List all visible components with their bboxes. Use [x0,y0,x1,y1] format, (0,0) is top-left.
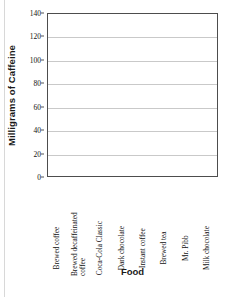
y-tick-mark [41,106,44,107]
x-tick-label-line: Milk chocolate [202,226,211,270]
y-tick-label: 120 [30,32,41,41]
y-tick-mark [41,13,44,14]
x-tick-label-line: Brewed coffee [53,227,62,270]
y-axis-title: Milligrams of Caffeine [6,45,17,146]
y-tick-mark [41,153,44,154]
gridline [48,131,217,132]
y-tick-label: 60 [34,102,42,111]
y-tick-label: 40 [34,126,42,135]
y-axis-tick-labels: 020406080100120140 [20,13,44,177]
x-axis-tick-labels: Brewed coffeeBrewed decaffeinatedcoffeeC… [47,178,218,252]
y-tick-mark [41,83,44,84]
gridline [48,155,217,156]
x-tick-label: Brewed tea [154,178,175,252]
x-tick-label: Brewed decaffeinatedcoffee [68,178,89,252]
gridline [48,84,217,85]
y-tick-mark [41,130,44,131]
y-tick-label: 20 [34,149,42,158]
x-tick-label-line: Dark chocolate [117,226,126,270]
plot-area [47,13,218,177]
gridline [48,61,217,62]
y-tick-mark [41,59,44,60]
y-tick-label: 100 [30,55,41,64]
gridline [48,37,217,38]
y-tick-mark [41,177,44,178]
x-tick-label: Mr. Pibb [175,178,196,252]
x-tick-label: Brewed coffee [47,178,68,252]
x-tick-label: Coca-Cola Classic [90,178,111,252]
y-axis-title-container: Milligrams of Caffeine [2,13,20,178]
gridline [48,108,217,109]
x-axis-title: Food [47,266,218,277]
x-tick-label: Milk chocolate [197,178,218,252]
x-tick-label: Dark chocolate [111,178,132,252]
x-tick-label: Instant coffee [133,178,154,252]
x-tick-label-line: Brewed tea [159,231,168,264]
x-tick-label-line: Mr. Pibb [181,235,190,261]
y-tick-mark [41,36,44,37]
chart-figure: Milligrams of Caffeine 02040608010012014… [0,0,240,297]
x-tick-label-line: Instant coffee [138,228,147,268]
y-tick-label: 80 [34,79,42,88]
y-tick-label: 140 [30,9,41,18]
